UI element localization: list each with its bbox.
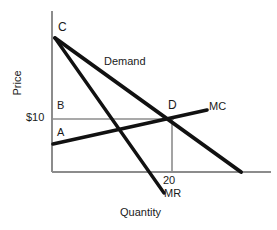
point-label-a: A	[57, 127, 64, 138]
mr-curve-label: MR	[164, 188, 181, 199]
point-label-c: C	[58, 22, 67, 33]
y-axis-title: Price	[11, 70, 23, 95]
demand-curve-label: Demand	[104, 56, 146, 67]
point-label-b: B	[57, 100, 64, 111]
point-label-d: D	[168, 100, 177, 111]
mc-curve	[53, 110, 207, 144]
quantity-tick-label: 20	[163, 175, 175, 186]
y-axis-title-wrap: Price	[7, 60, 21, 106]
economics-diagram: Price Quantity $10 20 C B A D Demand MC …	[0, 0, 277, 230]
price-tick-label: $10	[26, 112, 44, 123]
mc-curve-label: MC	[209, 101, 226, 112]
x-axis-title: Quantity	[120, 207, 161, 218]
